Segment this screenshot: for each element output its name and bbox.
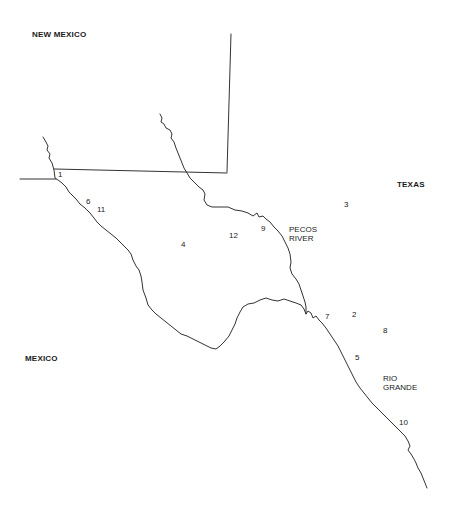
site-marker-3: 3 — [344, 200, 348, 209]
site-marker-10: 10 — [399, 418, 408, 427]
site-marker-7: 7 — [325, 312, 329, 321]
region-label-new-mexico: NEW MEXICO — [32, 30, 86, 39]
river-label-pecos: PECOS RIVER — [289, 225, 317, 243]
site-marker-12: 12 — [229, 231, 238, 240]
site-marker-4: 4 — [181, 240, 185, 249]
site-marker-8: 8 — [383, 326, 387, 335]
site-marker-1: 1 — [58, 170, 62, 179]
region-label-mexico: MEXICO — [25, 354, 58, 363]
map-canvas: NEW MEXICO TEXAS MEXICO PECOS RIVER RIO … — [0, 0, 453, 511]
river-label-pecos-line2: RIVER — [289, 234, 317, 243]
river-label-pecos-line1: PECOS — [289, 225, 317, 234]
site-marker-5: 5 — [355, 353, 359, 362]
river-label-rio-grande-line2: GRANDE — [383, 383, 417, 392]
region-label-texas: TEXAS — [397, 180, 425, 189]
site-marker-6: 6 — [86, 197, 90, 206]
site-marker-11: 11 — [97, 205, 105, 214]
river-label-rio-grande: RIO GRANDE — [383, 374, 417, 392]
site-marker-2: 2 — [352, 310, 356, 319]
river-label-rio-grande-line1: RIO — [383, 374, 417, 383]
site-marker-9: 9 — [261, 224, 265, 233]
